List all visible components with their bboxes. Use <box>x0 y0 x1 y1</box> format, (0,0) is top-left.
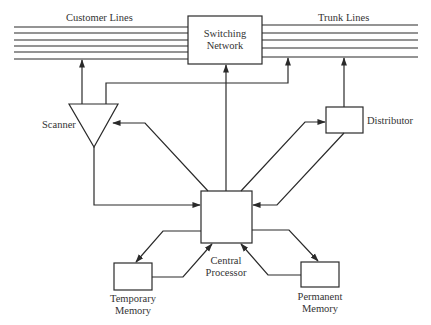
arrow-permanent-memory-to-cp <box>241 244 301 275</box>
distributor-box <box>326 107 363 133</box>
distributor-label: Distributor <box>367 115 414 126</box>
switching-network-label-2: Network <box>207 40 244 51</box>
central-processor-label-1: Central <box>211 255 242 266</box>
arrow-temporary-memory-to-cp <box>152 244 212 277</box>
arrow-cp-to-scanner <box>113 123 208 191</box>
permanent-memory-box <box>301 262 339 287</box>
central-processor-box <box>201 191 252 243</box>
temporary-memory-box <box>114 263 152 290</box>
scanner-triangle <box>69 104 118 147</box>
trunk-lines <box>262 25 418 57</box>
arrow-cp-to-permanent-memory <box>252 230 318 261</box>
arrow-scanner-to-cp <box>94 147 200 205</box>
temporary-memory-label-1: Temporary <box>110 293 157 304</box>
scanner-label: Scanner <box>42 119 76 130</box>
telephone-switching-diagram: Customer Lines Trunk Lines Switching Net… <box>0 0 431 325</box>
arrow-cp-to-temporary-memory <box>136 231 201 262</box>
permanent-memory-label-1: Permanent <box>298 291 343 302</box>
customer-lines <box>14 27 188 59</box>
arrow-scanner-to-trunk-lines <box>106 58 288 104</box>
temporary-memory-label-2: Memory <box>115 305 152 316</box>
customer-lines-label: Customer Lines <box>66 12 133 23</box>
arrow-distributor-to-cp <box>253 133 344 205</box>
switching-network-label-1: Switching <box>204 28 247 39</box>
central-processor-label-2: Processor <box>206 267 247 278</box>
arrow-cp-to-distributor <box>241 122 325 191</box>
permanent-memory-label-2: Memory <box>302 303 339 314</box>
trunk-lines-label: Trunk Lines <box>318 12 369 23</box>
